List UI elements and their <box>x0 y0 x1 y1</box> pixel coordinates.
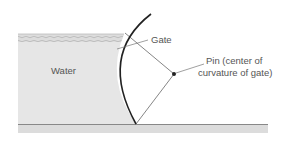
pin-dot <box>172 72 176 76</box>
water-surface <box>18 34 124 42</box>
gate-label: Gate <box>151 34 172 45</box>
radius-bottom <box>136 74 174 124</box>
water-body <box>18 34 136 124</box>
gate-leader <box>117 40 148 49</box>
water-label: Water <box>51 65 76 76</box>
ground-fill <box>18 125 268 133</box>
pin-label-line1: Pin (center of <box>206 55 263 66</box>
tainter-gate-diagram: Gate Pin (center of curvature of gate) W… <box>0 0 281 145</box>
pin-label-line2: curvature of gate) <box>198 67 272 78</box>
